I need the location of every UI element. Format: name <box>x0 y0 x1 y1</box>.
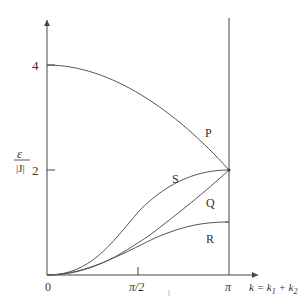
y-label-denominator: |J| <box>16 162 25 174</box>
tick-label-0: 0 <box>45 280 51 294</box>
tick-label-2: 2 <box>32 163 39 178</box>
curve-Q <box>47 170 229 275</box>
curve-label-R: R <box>206 232 214 246</box>
x-axis-label: k = k1 + k2 <box>249 281 298 296</box>
curve-label-S: S <box>172 172 179 186</box>
convergence-point <box>228 169 231 172</box>
curve-label-P: P <box>205 126 212 140</box>
tick-label-half-pi: π/2 <box>129 280 144 294</box>
curve-P <box>47 65 229 170</box>
tick-label-4: 4 <box>32 58 39 73</box>
tick-label-pi: π <box>225 280 232 294</box>
curve-label-Q: Q <box>206 196 215 210</box>
curve-S <box>47 170 229 275</box>
y-label-numerator: ε <box>17 146 23 161</box>
dispersion-chart: 4 2 0 π/2 π ε |J| k = k1 + k2 P S Q R <box>0 0 306 305</box>
